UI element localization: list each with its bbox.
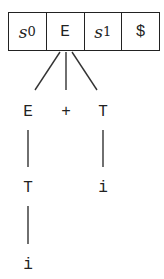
edge-E-to-E bbox=[35, 52, 60, 90]
tree-node-E: E bbox=[23, 104, 33, 120]
tree-node-i-right: i bbox=[98, 180, 108, 196]
tree-node-plus: + bbox=[61, 104, 71, 120]
tree-node-T: T bbox=[98, 104, 108, 120]
tree-node-i-left: i bbox=[23, 257, 33, 273]
tree-edges bbox=[0, 0, 164, 279]
tree-node-T-left: T bbox=[23, 180, 33, 196]
edge-E-to-T bbox=[72, 52, 97, 90]
